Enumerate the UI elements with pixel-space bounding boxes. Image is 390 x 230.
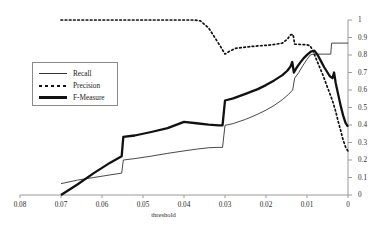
legend-item-f-measure: F-Measure — [37, 92, 105, 103]
axes — [20, 20, 352, 198]
x-tick-label: 0 — [346, 201, 350, 209]
y-tick-label: 0.4 — [358, 121, 367, 129]
x-tick-label: 0.08 — [14, 201, 27, 209]
legend-item-precision: Precision — [37, 80, 100, 91]
x-tick-label: 0.06 — [96, 201, 109, 209]
y-tick-label: 0.3 — [358, 139, 367, 147]
x-tick-label: 0.05 — [137, 201, 150, 209]
legend-swatch-precision — [37, 81, 69, 91]
line-chart: 0.080.070.060.050.040.030.020.010 00.10.… — [0, 0, 390, 230]
plot-area — [0, 0, 390, 230]
data-series — [61, 20, 348, 195]
x-axis-title: threshold — [151, 211, 176, 218]
y-tick-label: 0.8 — [358, 51, 367, 59]
y-tick-label: 0.2 — [358, 156, 367, 164]
x-tick-label: 0.07 — [55, 201, 68, 209]
y-tick-label: 0.1 — [358, 174, 367, 182]
x-tick-label: 0.04 — [178, 201, 191, 209]
y-tick-label: 0.5 — [358, 104, 367, 112]
y-tick-marks — [348, 20, 352, 195]
legend-line-sample — [39, 73, 67, 74]
legend-line-sample — [39, 85, 67, 87]
legend-label: Precision — [73, 81, 100, 90]
y-tick-label: 0.7 — [358, 69, 367, 77]
x-tick-label: 0.02 — [260, 201, 273, 209]
legend-label: Recall — [73, 69, 92, 78]
legend-swatch-recall — [37, 69, 69, 79]
y-tick-label: 1 — [358, 16, 362, 24]
x-tick-label: 0.01 — [301, 201, 314, 209]
y-tick-label: 0.9 — [358, 34, 367, 42]
legend-swatch-f-measure — [37, 93, 69, 103]
y-tick-label: 0 — [358, 191, 362, 199]
legend-label: F-Measure — [73, 93, 105, 102]
y-tick-label: 0.6 — [358, 86, 367, 94]
x-tick-label: 0.03 — [219, 201, 232, 209]
legend: RecallPrecisionF-Measure — [32, 62, 118, 106]
legend-line-sample — [39, 96, 67, 98]
legend-item-recall: Recall — [37, 68, 92, 79]
